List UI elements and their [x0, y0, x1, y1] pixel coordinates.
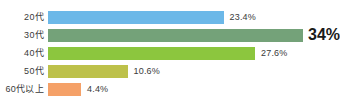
chart-row: 30代 34% [0, 26, 320, 44]
chart-row: 50代 10.6% [0, 62, 320, 80]
value-label: 27.6% [261, 47, 288, 59]
bar-track: 10.6% [48, 65, 320, 78]
value-label: 34% [308, 27, 340, 43]
bar-track: 23.4% [48, 11, 320, 24]
category-label: 20代 [0, 11, 44, 23]
category-label: 60代以上 [0, 83, 44, 95]
category-label: 40代 [0, 47, 44, 59]
chart-row: 20代 23.4% [0, 8, 320, 26]
chart-row: 40代 27.6% [0, 44, 320, 62]
category-label: 50代 [0, 65, 44, 77]
bar-track: 34% [48, 29, 320, 42]
chart-row: 60代以上 4.4% [0, 80, 320, 98]
bar-track: 27.6% [48, 47, 320, 60]
value-label: 4.4% [87, 83, 108, 95]
category-label: 30代 [0, 29, 44, 41]
value-label: 10.6% [134, 65, 161, 77]
value-label: 23.4% [230, 11, 257, 23]
bar-segment[interactable] [48, 11, 224, 24]
bar-segment[interactable] [48, 65, 128, 78]
bar-segment[interactable] [48, 29, 303, 42]
bar-segment[interactable] [48, 47, 255, 60]
bar-track: 4.4% [48, 83, 320, 96]
bar-segment[interactable] [48, 83, 81, 96]
